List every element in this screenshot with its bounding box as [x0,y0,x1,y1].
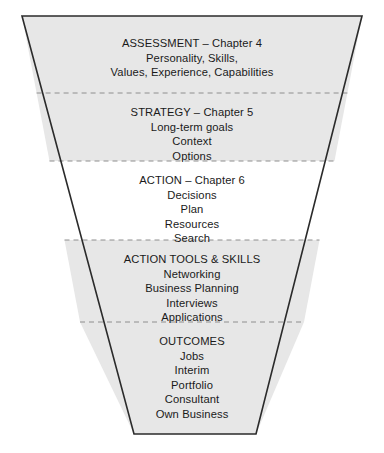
funnel-band-action-tools-skills-fill [65,240,320,322]
funnel-band-assessment-fill [22,16,362,93]
funnel-band-strategy-fill [37,93,348,161]
funnel-shape [0,0,384,453]
funnel-band-action-fill [50,161,335,240]
funnel-diagram: ASSESSMENT – Chapter 4 Personality, Skil… [0,0,384,453]
